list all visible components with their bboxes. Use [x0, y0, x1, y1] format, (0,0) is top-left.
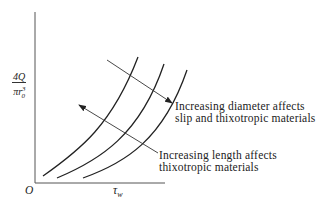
diameter-arrow [107, 60, 172, 103]
curve-2 [57, 64, 164, 178]
length-arrow [79, 105, 158, 153]
origin-label: O [25, 184, 34, 196]
x-axis-label: τw [113, 184, 123, 201]
y-axis-label-numerator: 4Q [12, 71, 26, 83]
y-axis-label-denominator: πr30 [12, 83, 26, 102]
length-annotation-line1: Increasing length affects [159, 149, 277, 161]
diameter-annotation: Increasing diameter affects slip and thi… [175, 100, 315, 124]
diameter-annotation-line2: slip and thixotropic materials [175, 112, 315, 124]
length-annotation-line2: thixotropic materials [159, 161, 277, 173]
length-annotation: Increasing length affects thixotropic ma… [159, 149, 277, 173]
diameter-annotation-line1: Increasing diameter affects [175, 100, 315, 112]
y-axis-label: 4Q πr30 [12, 71, 26, 102]
